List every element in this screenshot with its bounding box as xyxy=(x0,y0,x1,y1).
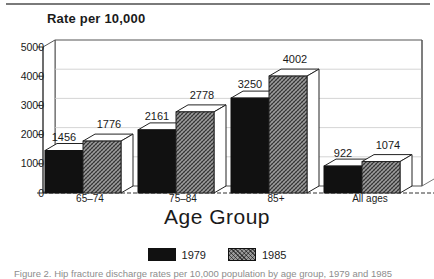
bar-1985-all-ages xyxy=(362,155,412,193)
value-label-1985-all-ages: 1074 xyxy=(362,139,414,151)
y-tick-3000: 3000 xyxy=(4,99,44,111)
chart-legend: 1979 1985 xyxy=(0,248,434,261)
value-label-1979-all-ages: 922 xyxy=(319,147,367,159)
value-label-1985-75-84: 2778 xyxy=(176,89,228,101)
y-tick-1000: 1000 xyxy=(4,157,44,169)
legend-item-1985: 1985 xyxy=(228,248,286,261)
legend-item-1979: 1979 xyxy=(148,248,206,261)
figure-caption-partial: Figure 2. Hip fracture discharge rates p… xyxy=(14,268,424,279)
y-tick-4000: 4000 xyxy=(4,70,44,82)
value-label-1985-85plus: 4002 xyxy=(269,53,321,65)
bar-1985-75-84 xyxy=(176,105,226,193)
y-tick-5000: 5000 xyxy=(4,41,44,53)
value-label-1979-65-74: 1456 xyxy=(38,131,90,143)
x-tick-label-85plus: 85+ xyxy=(240,193,312,204)
x-tick-label-all-ages: All ages xyxy=(331,193,409,204)
x-tick-label-65-74: 65–74 xyxy=(54,193,126,204)
value-label-1979-85plus: 3250 xyxy=(224,78,276,90)
legend-label-1985: 1985 xyxy=(262,249,286,261)
value-label-1979-75-84: 2161 xyxy=(131,110,183,122)
x-tick-label-75-84: 75–84 xyxy=(147,193,219,204)
bar-1985-65-74 xyxy=(83,134,133,193)
x-axis-title: Age Group xyxy=(0,205,434,229)
legend-label-1979: 1979 xyxy=(182,249,206,261)
bar-1985-85plus xyxy=(269,69,319,193)
legend-swatch-1985-icon xyxy=(228,248,256,261)
legend-swatch-1979-icon xyxy=(148,248,176,261)
value-label-1985-65-74: 1776 xyxy=(83,118,135,130)
y-tick-0: 0 xyxy=(4,187,44,199)
